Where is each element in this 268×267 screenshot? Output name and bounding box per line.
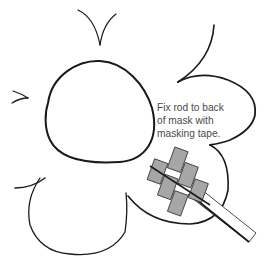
caption-line-1: Fix rod to back [157, 101, 257, 114]
mask-instruction-illustration: Fix rod to back of mask with masking tap… [0, 0, 268, 267]
caption-line-2: of mask with [157, 114, 257, 127]
face-oval [46, 61, 155, 163]
bottom-left-lobe [29, 178, 127, 255]
caption-line-3: masking tape. [157, 127, 257, 140]
right-ear-stroke [178, 25, 214, 82]
top-ear-stroke [78, 10, 116, 45]
instruction-caption: Fix rod to back of mask with masking tap… [157, 101, 257, 140]
left-lower-flick [15, 178, 45, 188]
left-ear-stroke [12, 91, 28, 103]
masking-tape [139, 142, 216, 221]
